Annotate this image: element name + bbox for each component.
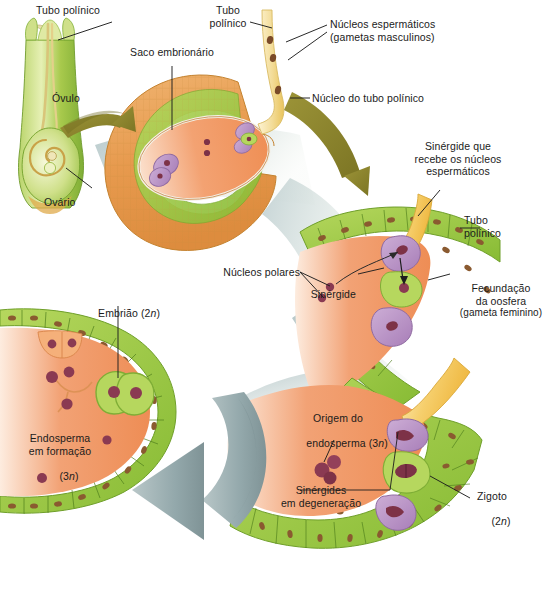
label-nucleos-espermaticos: Núcleos espermáticos (gametas masculinos… bbox=[330, 18, 435, 43]
label-nucleos-polares: Núcleos polares bbox=[190, 266, 300, 279]
label-embriao: Embrião (2n) bbox=[86, 294, 160, 332]
label-ovulo: Óvulo bbox=[52, 92, 80, 105]
figure-canvas: Tubo polínico Óvulo Ovário Saco embrioná… bbox=[0, 0, 544, 589]
label-nucleo-tubo-polinico: Núcleo do tubo polínico bbox=[312, 92, 424, 105]
label-sinergide: Sinérgide bbox=[286, 288, 356, 301]
label-origem-endosperma: Origem do endosperma (3n) bbox=[284, 412, 392, 462]
label-ovario: Ovário bbox=[44, 196, 76, 209]
label-tubo-polinico-topo: Tubo polínico bbox=[196, 4, 260, 29]
label-tubo-polinico-meio: Tubo polínico bbox=[464, 214, 501, 239]
label-sinergides-degeneracao: Sinérgides em degeneração bbox=[266, 484, 376, 509]
label-sinergide-recebe: Sinérgide que recebe os núcleos espermát… bbox=[398, 140, 518, 178]
label-fecundacao-oosfera: Fecundação da oosfera (gameta feminino) bbox=[458, 282, 544, 320]
label-saco-embrionario: Saco embrionário bbox=[130, 46, 214, 59]
label-endosperma-formacao: Endosperma em formação (3n) bbox=[8, 432, 112, 495]
label-tubo-polinico-flor: Tubo polínico bbox=[36, 4, 100, 17]
label-zigoto: Zigoto (2n) bbox=[462, 490, 522, 540]
